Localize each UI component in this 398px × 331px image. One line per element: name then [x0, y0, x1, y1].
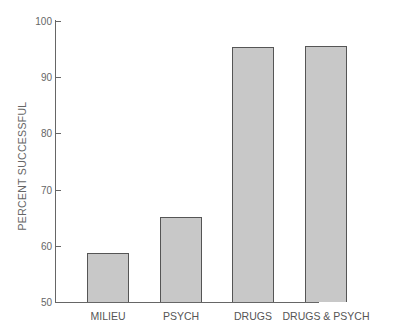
y-tick-mark [56, 190, 61, 191]
bar [232, 47, 274, 302]
y-tick-label: 80 [20, 128, 52, 139]
y-tick-mark [56, 302, 61, 303]
x-tick-label: DRUGS & PSYCH [283, 310, 370, 322]
y-tick-label: 90 [20, 72, 52, 83]
y-axis-title: PERCENT SUCCESSFUL [16, 101, 28, 230]
y-tick-label: 60 [20, 240, 52, 251]
y-tick-mark [56, 133, 61, 134]
x-tick-label: PSYCH [163, 310, 199, 322]
y-tick-label: 70 [20, 184, 52, 195]
x-axis-line [55, 302, 319, 303]
y-tick-mark [56, 246, 61, 247]
y-tick-mark [56, 77, 61, 78]
y-tick-mark [56, 21, 61, 22]
y-tick-label: 100 [20, 16, 52, 27]
x-tick-label: DRUGS [234, 310, 272, 322]
bar [305, 46, 347, 302]
bar [87, 253, 129, 302]
x-tick-label: MILIEU [90, 310, 125, 322]
y-tick-label: 50 [20, 297, 52, 308]
y-axis-line [55, 20, 56, 302]
y-axis-label: PERCENT SUCCESSFUL [2, 0, 42, 331]
bar [160, 217, 202, 302]
